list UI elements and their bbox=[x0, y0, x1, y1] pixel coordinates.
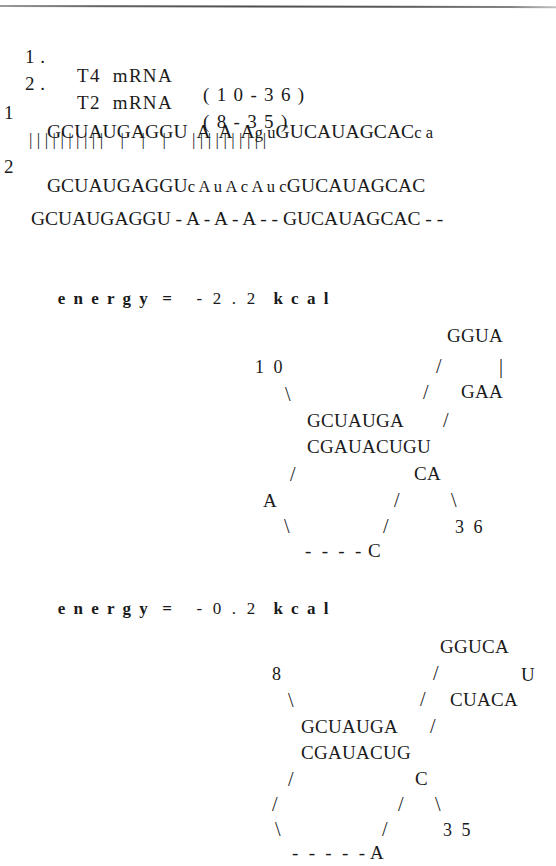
structure-2-loop-corner: U bbox=[521, 665, 535, 684]
structure-2-slash-1: / bbox=[433, 663, 439, 683]
energy-line-2: e n e r g y = - 0 . 2 k c a l bbox=[28, 583, 330, 634]
structure-2-slash-5: / bbox=[272, 794, 278, 814]
structure-1-slash-6: / bbox=[383, 516, 389, 536]
alignment-row-1-lowercase-2: c a bbox=[414, 123, 433, 142]
structure-1-loop-top: GGUA bbox=[447, 326, 503, 345]
structure-1-backslash-3: \ bbox=[284, 516, 290, 536]
structure-2-slash-6: / bbox=[398, 794, 404, 814]
structure-1-slash-3: / bbox=[443, 410, 449, 430]
structure-1-slash-1: / bbox=[436, 356, 442, 376]
structure-1-tail-base: C bbox=[368, 541, 381, 560]
structure-1-stem-top: GCUAUGA bbox=[307, 411, 404, 430]
energy-line-2-unit: k c a l bbox=[273, 599, 330, 618]
energy-line-1-value: - 2 . 2 bbox=[196, 289, 258, 308]
alignment-match-bars: | | | | | | | | | | | | | | | | | | | | … bbox=[29, 131, 266, 148]
energy-line-1-unit: k c a l bbox=[273, 289, 330, 308]
structure-2-start-position: 8 bbox=[272, 665, 284, 683]
structure-2-slash-7: / bbox=[382, 819, 388, 839]
structure-2-backslash-1: \ bbox=[288, 690, 294, 710]
structure-2-stem-top: GCUAUGA bbox=[301, 717, 398, 736]
structure-2-end-position: 3 5 bbox=[443, 821, 473, 839]
structure-1-tail-dashes: - - - - bbox=[305, 541, 364, 560]
energy-line-1-label: e n e r g y = bbox=[58, 289, 174, 308]
structure-2-loop-right: CUACA bbox=[450, 690, 518, 709]
alignment-row-1-label: 1 bbox=[4, 103, 14, 122]
structure-2-tail-base: A bbox=[370, 843, 384, 862]
structure-1-start-position: 1 0 bbox=[255, 358, 285, 376]
header-entry-1-name: T4 mRNA bbox=[77, 66, 173, 85]
structure-1-slash-2: / bbox=[423, 382, 429, 402]
consensus-sequence: GCUAUGAGGU - A - A - A - - GUCAUAGCAC - … bbox=[31, 209, 443, 229]
structure-1-backslash-2: \ bbox=[451, 490, 457, 510]
structure-2-backslash-3: \ bbox=[275, 819, 281, 839]
structure-1-bulge-right: CA bbox=[414, 464, 441, 483]
document-page: 1 . T4 mRNA ( 1 0 - 3 6 ) 2 . T2 mRNA ( … bbox=[0, 0, 556, 866]
structure-1-end-position: 3 6 bbox=[455, 518, 485, 536]
header-entry-2-number: 2 . bbox=[25, 74, 46, 93]
alignment-row-2-sequence: GCUAUGAGGUc A u A c A u cGUCAUAGCAC bbox=[27, 156, 425, 215]
structure-2-backslash-2: \ bbox=[435, 794, 441, 814]
alignment-row-1-seq-b: GUCAUAGCAC bbox=[276, 121, 415, 142]
structure-1-backslash-1: \ bbox=[285, 384, 291, 404]
structure-1-slash-5: / bbox=[394, 490, 400, 510]
energy-line-1: e n e r g y = - 2 . 2 k c a l bbox=[28, 273, 330, 324]
structure-2-slash-3: / bbox=[430, 716, 436, 736]
energy-line-2-label: e n e r g y = bbox=[58, 599, 174, 618]
structure-2-slash-2: / bbox=[420, 689, 426, 709]
structure-1-vertical-bar: | bbox=[499, 356, 503, 376]
alignment-row-2-seq-b: GUCAUAGCAC bbox=[287, 175, 426, 196]
alignment-row-2-label: 2 bbox=[4, 157, 14, 176]
structure-1-loop-right: GAA bbox=[461, 382, 503, 401]
structure-2-bulge-right: C bbox=[415, 769, 428, 788]
energy-line-2-value: - 0 . 2 bbox=[196, 599, 258, 618]
structure-2-loop-top: GGUCA bbox=[440, 637, 509, 656]
alignment-row-2-seq-a: GCUAUGAGGU bbox=[47, 175, 188, 196]
structure-1-slash-4: / bbox=[290, 464, 296, 484]
structure-1-bulge-left: A bbox=[263, 491, 277, 510]
structure-2-slash-4: / bbox=[288, 769, 294, 789]
structure-1-stem-bottom: CGAUACUGU bbox=[307, 437, 431, 456]
structure-2-tail-dashes: - - - - - bbox=[292, 843, 368, 862]
scan-edge-artifact bbox=[0, 5, 556, 8]
structure-2-stem-bottom: CGAUACUG bbox=[301, 743, 411, 762]
alignment-row-2-lowercase-1: c A u A c A u c bbox=[188, 177, 287, 196]
